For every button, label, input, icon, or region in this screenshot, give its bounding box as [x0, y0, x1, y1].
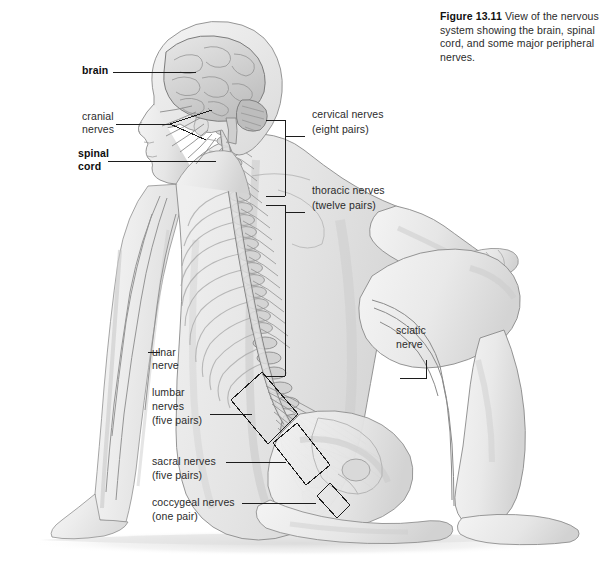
right-foot — [457, 514, 579, 544]
label-spinal-cord-line2: cord — [78, 160, 101, 173]
label-coccygeal-nerves-line2: (one pair) — [152, 510, 198, 523]
label-spinal-cord-line1: spinal — [78, 147, 109, 160]
label-cranial-nerves-line1: cranial — [82, 110, 114, 123]
label-lumbar-nerves-line2: nerves — [152, 400, 184, 413]
figure-page: Figure 13.11 View of the nervous system … — [0, 0, 607, 576]
label-coccygeal-nerves-line1: coccygeal nerves — [152, 496, 235, 509]
label-thoracic-nerves-line2: (twelve pairs) — [312, 199, 376, 212]
label-brain: brain — [82, 64, 108, 77]
label-thoracic-nerves-line1: thoracic nerves — [312, 184, 385, 197]
label-cranial-nerves-line2: nerves — [82, 123, 114, 136]
label-sciatic-nerve-line2: nerve — [396, 338, 423, 351]
label-sciatic-nerve-line1: sciatic — [396, 324, 426, 337]
figure-number: Figure 13.11 — [440, 10, 502, 22]
label-ulnar-nerve-line2: nerve — [152, 359, 179, 372]
label-cervical-nerves-line2: (eight pairs) — [312, 123, 369, 136]
label-ulnar-nerve-line1: ulnar — [152, 346, 176, 359]
label-sacral-nerves-line2: (five pairs) — [152, 469, 202, 482]
label-sacral-nerves-line1: sacral nerves — [152, 455, 216, 468]
label-lumbar-nerves-line1: lumbar — [152, 386, 185, 399]
label-cervical-nerves-line1: cervical nerves — [312, 108, 384, 121]
label-lumbar-nerves-line3: (five pairs) — [152, 414, 202, 427]
figure-caption: Figure 13.11 View of the nervous system … — [440, 10, 600, 64]
nervous-system-illustration — [0, 0, 607, 576]
